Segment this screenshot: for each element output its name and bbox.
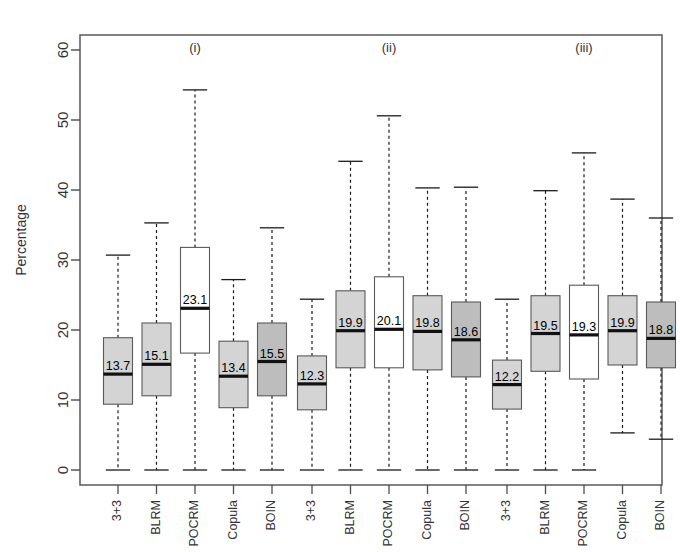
x-axis-tick-label: BOIN xyxy=(458,500,472,531)
x-axis-tick-label: Copula xyxy=(615,500,629,540)
x-axis-tick-label: POCRM xyxy=(187,500,201,547)
y-axis-tick-label: 40 xyxy=(54,182,71,199)
boxplot-figure: 0102030405060 Percentage (i)(ii)(iii) 13… xyxy=(0,0,680,552)
median-value-label: 19.5 xyxy=(533,319,557,333)
median-value-label: 15.1 xyxy=(144,349,168,363)
median-value-label: 20.1 xyxy=(377,314,401,328)
y-axis-tick-label: 10 xyxy=(54,392,71,409)
figure-canvas: 0102030405060 Percentage (i)(ii)(iii) 13… xyxy=(0,0,680,552)
median-value-label: 12.2 xyxy=(495,370,519,384)
median-value-label: 13.4 xyxy=(221,361,245,375)
y-axis-tick-label: 30 xyxy=(54,252,71,269)
x-axis-tick-label: 3+3 xyxy=(304,500,318,521)
y-axis-label-text: Percentage xyxy=(13,204,29,276)
median-value-label: 19.9 xyxy=(338,316,362,330)
y-axis-tick-label: 20 xyxy=(54,322,71,339)
x-axis-tick-label: BOIN xyxy=(264,500,278,531)
median-value-label: 12.3 xyxy=(300,369,324,383)
x-axis-tick-label: 3+3 xyxy=(110,500,124,521)
x-axis-tick-label: 3+3 xyxy=(499,500,513,521)
median-value-label: 18.6 xyxy=(454,325,478,339)
x-axis-tick-label: BLRM xyxy=(343,500,357,535)
panel-label: (ii) xyxy=(382,40,396,55)
median-value-label: 19.9 xyxy=(610,316,634,330)
y-axis-tick-label: 50 xyxy=(54,112,71,129)
y-axis-tick-label: 60 xyxy=(54,42,71,59)
panel-label: (i) xyxy=(189,40,201,55)
x-axis-tick-label: Copula xyxy=(420,500,434,540)
x-axis-tick-label: BOIN xyxy=(653,500,667,531)
panel-label: (iii) xyxy=(575,40,592,55)
median-value-label: 18.8 xyxy=(649,323,673,337)
x-axis-tick-label: POCRM xyxy=(381,500,395,547)
y-axis-tick-label: 0 xyxy=(54,466,71,474)
x-axis-tick-label: POCRM xyxy=(576,500,590,547)
median-value-label: 13.7 xyxy=(106,359,130,373)
x-axis-tick-label: BLRM xyxy=(149,500,163,535)
median-value-label: 19.8 xyxy=(415,316,439,330)
x-axis-tick-label: BLRM xyxy=(538,500,552,535)
x-axis-tick-label: Copula xyxy=(226,500,240,540)
y-axis-title: Percentage xyxy=(13,204,29,276)
median-value-label: 23.1 xyxy=(183,293,207,307)
median-value-label: 15.5 xyxy=(260,347,284,361)
figure-background xyxy=(0,0,680,552)
median-value-label: 19.3 xyxy=(572,320,596,334)
